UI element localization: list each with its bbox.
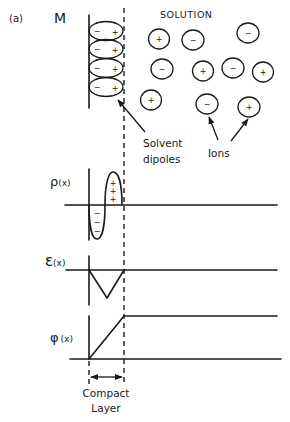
solvent-dipoles-pointer-arrow	[118, 100, 145, 132]
dipole-negative-sign: −	[94, 27, 101, 36]
ion: −	[222, 58, 244, 78]
metal-label: M	[54, 10, 66, 26]
electric-field-plot: ε(x)	[45, 252, 277, 305]
ion-charge: −	[204, 100, 211, 109]
epsilon-axis-label: ε(x)	[45, 252, 65, 270]
epsilon-v-curve	[89, 270, 124, 298]
dipole-positive-sign: +	[112, 84, 119, 93]
ion-charge: +	[200, 67, 207, 76]
dipole-negative-sign: −	[94, 83, 101, 92]
ions-label: Ions	[208, 147, 230, 159]
rho-arg: (x)	[58, 178, 70, 188]
solution-ions: + − − − + − + + − +	[141, 23, 274, 117]
ion-charge: +	[148, 96, 155, 105]
ion-charge: −	[190, 36, 197, 45]
rho-positive-sign: +	[110, 195, 117, 204]
ion-charge: −	[245, 29, 252, 38]
ions-pointer-arrow-right	[231, 119, 248, 141]
dipole-positive-sign: +	[112, 46, 119, 55]
compact-layer-label-line1: Compact	[83, 387, 130, 399]
phi-arg: (x)	[61, 334, 73, 344]
solvent-dipole: − +	[89, 22, 123, 41]
ion: +	[141, 90, 162, 110]
ion-charge: +	[260, 68, 267, 77]
solvent-label-line2: dipoles	[143, 153, 181, 165]
compact-layer-dimension: Compact Layer	[83, 361, 130, 414]
dipole-negative-sign: −	[94, 45, 101, 54]
dipole-positive-sign: +	[112, 65, 119, 74]
ion: +	[238, 97, 260, 117]
rho-negative-sign: −	[94, 218, 101, 227]
ion-charge: −	[230, 64, 237, 73]
epsilon-arg: (x)	[53, 258, 65, 268]
panel-label: (a)	[9, 13, 23, 24]
ion-charge: +	[246, 103, 253, 112]
rho-negative-sign: −	[94, 227, 101, 236]
rho-axis-label: ρ(x)	[50, 174, 71, 189]
charge-density-plot: ρ(x) + + + − − −	[50, 169, 277, 240]
ion-charge: −	[159, 65, 166, 74]
epsilon-symbol: ε	[45, 252, 53, 270]
ion: +	[253, 62, 274, 82]
ion-charge: +	[156, 35, 163, 44]
ion: −	[237, 23, 259, 43]
potential-plot: φ(x)	[50, 316, 281, 359]
electric-double-layer-diagram: (a) M SOLUTION − + − + − + − + + − −	[0, 0, 290, 422]
dipole-positive-sign: +	[112, 28, 119, 37]
solution-label: SOLUTION	[160, 9, 212, 20]
compact-layer-label-line2: Layer	[91, 402, 121, 414]
phi-axis-label: φ(x)	[50, 330, 73, 345]
ions-pointer-arrow-left	[209, 117, 218, 140]
dipole-negative-sign: −	[94, 64, 101, 73]
ion: +	[193, 61, 214, 81]
solvent-dipole: − +	[89, 59, 123, 78]
ion: −	[196, 94, 218, 114]
solvent-label-line1: Solvent	[143, 137, 182, 149]
rho-symbol: ρ	[50, 174, 58, 189]
solvent-dipoles: − + − + − + − +	[89, 22, 123, 97]
ion: +	[149, 29, 170, 49]
phi-ramp-and-plateau	[89, 316, 277, 359]
phi-symbol: φ	[50, 330, 59, 345]
rho-negative-sign: −	[94, 209, 101, 218]
solvent-dipole: − +	[89, 40, 123, 59]
ion: −	[151, 59, 173, 79]
ion: −	[182, 30, 204, 50]
solvent-dipole: − +	[89, 78, 123, 97]
